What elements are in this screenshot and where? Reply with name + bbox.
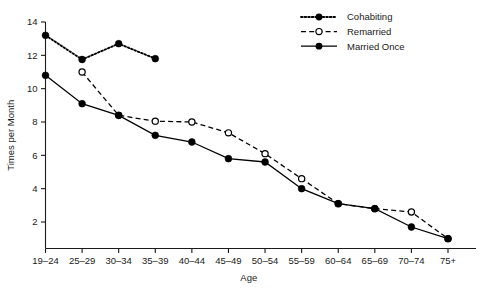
x-tick-label: 19–24	[32, 255, 58, 266]
legend-marker	[316, 29, 322, 35]
x-tick-label: 25–29	[69, 255, 95, 266]
data-point	[42, 72, 49, 79]
x-axis-title: Age	[240, 272, 257, 283]
data-point	[225, 155, 232, 162]
y-axis-title: Times per Month	[5, 100, 16, 171]
x-tick-label: 50–54	[252, 255, 278, 266]
x-tick-label: 65–69	[362, 255, 388, 266]
data-point	[298, 185, 305, 192]
y-tick-label: 8	[32, 116, 37, 127]
legend-label: Remarried	[347, 26, 391, 37]
data-point	[408, 209, 414, 215]
data-point	[79, 69, 85, 75]
data-point	[115, 112, 122, 119]
chart-background	[0, 0, 483, 291]
data-point	[152, 118, 158, 124]
y-tick-label: 12	[27, 50, 38, 61]
legend-label: Cohabiting	[347, 11, 392, 22]
data-point	[189, 119, 195, 125]
data-point	[262, 159, 269, 166]
chart-legend: CohabitingRemarriedMarried Once	[301, 11, 405, 51]
x-tick-label: 35–39	[142, 255, 168, 266]
data-point	[225, 130, 231, 136]
data-point	[152, 55, 159, 62]
data-point	[152, 132, 159, 139]
legend-marker	[316, 14, 323, 21]
x-tick-label: 45–49	[215, 255, 241, 266]
legend-label: Married Once	[347, 41, 405, 52]
data-point	[408, 224, 415, 231]
data-point	[299, 176, 305, 182]
chart-container: 2468101214 19–2425–2930–3435–3940–4445–4…	[0, 0, 483, 291]
y-tick-label: 10	[27, 83, 38, 94]
legend-marker	[316, 43, 323, 50]
x-tick-label: 30–34	[105, 255, 131, 266]
y-tick-label: 4	[32, 183, 37, 194]
y-tick-label: 2	[32, 216, 37, 227]
x-tick-label: 60–64	[325, 255, 351, 266]
data-point	[79, 100, 86, 107]
data-point	[42, 32, 49, 39]
data-point	[79, 56, 86, 63]
data-point	[262, 151, 268, 157]
x-tick-label: 55–59	[288, 255, 314, 266]
x-tick-label: 75+	[440, 255, 457, 266]
x-tick-label: 70–74	[398, 255, 424, 266]
data-point	[188, 139, 195, 146]
x-tick-label: 40–44	[179, 255, 205, 266]
data-point	[445, 235, 452, 242]
data-point	[115, 40, 122, 47]
line-chart: 2468101214 19–2425–2930–3435–3940–4445–4…	[0, 0, 483, 291]
y-tick-label: 14	[27, 16, 38, 27]
data-point	[335, 200, 342, 207]
y-tick-label: 6	[32, 150, 37, 161]
data-point	[371, 205, 378, 212]
